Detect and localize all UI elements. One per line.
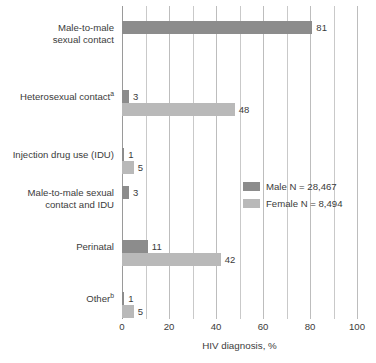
bar-female xyxy=(122,161,134,174)
category-label-heterosexual-contact: Heterosexual contacta xyxy=(0,91,114,103)
category-label-perinatal: Perinatal xyxy=(0,241,114,253)
bar-value-label: 1 xyxy=(128,148,133,161)
bar-male xyxy=(122,21,312,34)
x-tick-label: 20 xyxy=(164,321,175,332)
footnote-marker-b: b xyxy=(110,292,114,299)
bar-value-label: 81 xyxy=(316,21,327,34)
bar-value-label: 42 xyxy=(225,253,236,266)
bar-value-label: 3 xyxy=(133,186,138,199)
category-label-line: Male-to-male sexual xyxy=(28,187,114,198)
x-tick-label: 80 xyxy=(305,321,316,332)
legend-item-male: Male N = 28,467 xyxy=(243,180,373,193)
bar-male xyxy=(122,240,148,253)
x-axis-ticks: 020406080100 xyxy=(122,319,357,335)
bar-female xyxy=(122,103,235,116)
x-tick-label: 100 xyxy=(349,321,365,332)
category-label-line: Other xyxy=(86,293,110,304)
legend-item-female: Female N = 8,494 xyxy=(243,197,373,210)
category-label-line: sexual contact xyxy=(53,34,114,45)
category-label-line: Male-to-male xyxy=(58,22,114,33)
bar-female xyxy=(122,253,221,266)
bar-groups: 81348153114215 xyxy=(122,6,357,319)
gridline xyxy=(357,6,358,319)
hiv-diagnosis-bar-chart: Male-to-male sexual contact Heterosexual… xyxy=(0,0,376,363)
x-axis-title: HIV diagnosis, % xyxy=(122,340,357,351)
bar-male xyxy=(122,148,124,161)
category-label-injection-drug-use: Injection drug use (IDU) xyxy=(0,149,114,161)
bar-value-label: 5 xyxy=(138,161,143,174)
bar-value-label: 11 xyxy=(152,240,162,253)
plot-area: 81348153114215 xyxy=(122,6,357,319)
category-label-line: Injection drug use (IDU) xyxy=(13,149,114,160)
bar-male xyxy=(122,292,124,305)
bar-value-label: 1 xyxy=(128,292,133,305)
category-label-male-to-male-sexual-contact: Male-to-male sexual contact xyxy=(0,22,114,45)
category-label-other: Otherb xyxy=(0,293,114,305)
legend-swatch-male-icon xyxy=(243,182,260,191)
bar-value-label: 5 xyxy=(138,305,143,318)
bar-female xyxy=(122,305,134,318)
bar-value-label: 3 xyxy=(133,90,138,103)
legend-label-male: Male N = 28,467 xyxy=(266,181,337,192)
legend-swatch-female-icon xyxy=(243,199,260,208)
x-tick-label: 60 xyxy=(258,321,269,332)
category-label-line: contact and IDU xyxy=(45,199,114,210)
chart-legend: Male N = 28,467 Female N = 8,494 xyxy=(243,180,373,214)
footnote-marker-a: a xyxy=(110,90,114,97)
category-axis-labels: Male-to-male sexual contact Heterosexual… xyxy=(0,6,118,319)
bar-male xyxy=(122,186,129,199)
bar-male xyxy=(122,90,129,103)
x-tick-label: 0 xyxy=(119,321,124,332)
x-tick-label: 40 xyxy=(211,321,222,332)
category-label-line: Perinatal xyxy=(76,241,114,252)
category-label-line: Heterosexual contact xyxy=(20,91,110,102)
category-label-male-to-male-and-idu: Male-to-male sexual contact and IDU xyxy=(0,187,114,210)
legend-label-female: Female N = 8,494 xyxy=(266,198,343,209)
bar-value-label: 48 xyxy=(239,103,250,116)
